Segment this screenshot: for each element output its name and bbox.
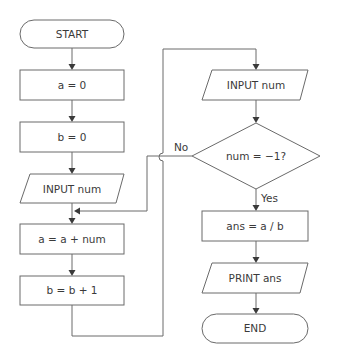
arrow-add-to-inc (69, 254, 76, 276)
arrowhead-icon (253, 205, 260, 211)
arrow-calc-to-print (253, 241, 260, 263)
arrowhead-icon (253, 257, 260, 263)
decision-label: num = −1? (226, 150, 286, 162)
arrowhead-icon (69, 218, 76, 224)
end-label: END (244, 322, 267, 334)
process-label: a = 0 (58, 79, 87, 91)
input-num-loop: INPUT num (202, 70, 308, 100)
arrowhead-icon (74, 208, 80, 215)
input-num-first: INPUT num (20, 174, 124, 203)
arrowhead-icon (253, 117, 260, 123)
process-b-equals-0: b = 0 (20, 122, 124, 152)
arrowhead-icon (69, 64, 76, 70)
arrowhead-icon (69, 116, 76, 122)
process-a-equals-0: a = 0 (20, 70, 124, 100)
output-label: PRINT ans (229, 272, 282, 284)
arrowhead-icon (69, 270, 76, 276)
process-label: ans = a / b (226, 220, 284, 232)
arrow-start-to-a (69, 48, 76, 70)
process-ans-equals-a-div-b: ans = a / b (202, 211, 308, 241)
arrow-b-to-input (69, 152, 76, 174)
input-label: INPUT num (227, 79, 285, 91)
arrowhead-icon (69, 168, 76, 174)
arrow-print-to-end (253, 293, 260, 314)
output-print-ans: PRINT ans (202, 263, 308, 293)
process-label: a = a + num (38, 233, 105, 245)
arrow-input-to-decision (253, 100, 260, 123)
start-terminal: START (20, 20, 124, 48)
yes-branch-connector: Yes (253, 189, 278, 211)
end-terminal: END (202, 314, 308, 343)
start-label: START (56, 28, 89, 40)
input-label: INPUT num (43, 183, 101, 195)
process-label: b = 0 (58, 131, 87, 143)
no-label: No (174, 141, 188, 153)
arrowhead-icon (253, 308, 260, 314)
flowchart: START a = 0 b = 0 INPUT num a = a + num (0, 0, 337, 360)
arrowhead-icon (253, 64, 260, 70)
decision-num-equals-minus-1: num = −1? (192, 123, 320, 189)
arrow-a-to-b (69, 100, 76, 122)
process-a-plus-num: a = a + num (20, 224, 124, 254)
process-b-plus-1: b = b + 1 (20, 276, 124, 305)
process-label: b = b + 1 (47, 284, 98, 296)
arrow-input-to-add (69, 203, 76, 224)
yes-label: Yes (260, 192, 278, 204)
